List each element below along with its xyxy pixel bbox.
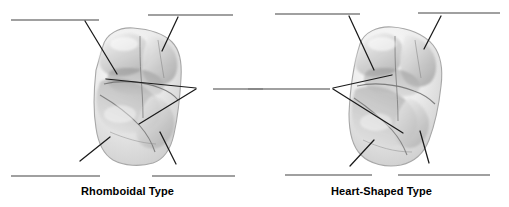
figure-container: Rhomboidal Type Heart-Shaped Type xyxy=(0,0,509,207)
highlight-buccal-rhomboidal xyxy=(110,37,138,51)
highlight-lingual-rhomboidal xyxy=(104,105,136,123)
highlight-buccal-heart-shaped xyxy=(368,37,396,51)
caption-rhomboidal-type: Rhomboidal Type xyxy=(0,185,255,197)
figure-illustration xyxy=(0,0,509,207)
tooth-illustration-rhomboidal xyxy=(94,28,181,165)
caption-heart-shaped-type: Heart-Shaped Type xyxy=(254,185,509,197)
tooth-illustration-heart-shaped xyxy=(349,27,442,166)
